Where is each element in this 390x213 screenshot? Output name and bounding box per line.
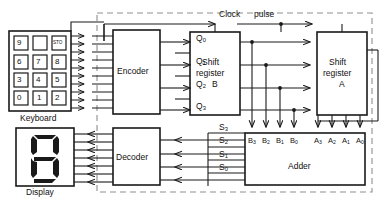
keypad-key-0[interactable]: 0 [17,93,21,102]
srb-label-line3: B [212,79,218,89]
sra-label-line3: A [339,79,345,89]
signal-a2: A2 [328,136,336,145]
signal-s1: S1 [219,149,228,159]
signal-b0: B0 [290,136,298,145]
sra-label-line2: register [323,68,351,78]
encoder-label: Encoder [117,66,149,76]
signal-a3: A3 [314,136,322,145]
signal-s0: S0 [219,162,228,172]
signal-q3: Q3 [196,101,206,111]
signal-b2: B2 [262,136,270,145]
keypad-key-2[interactable]: 2 [55,93,59,102]
signal-s3: S3 [219,122,228,132]
keypad-key-6[interactable]: 6 [17,57,21,66]
keypad-key-8[interactable]: 8 [55,57,59,66]
signal-s2: S2 [219,135,228,145]
keypad-key-sto[interactable]: STO [53,40,62,45]
keypad-key-7[interactable]: 7 [36,57,40,66]
signal-b1: B1 [276,136,284,145]
clock-label-2: pulse [254,9,274,19]
b-tap-verticals [252,42,294,127]
top-feedback-wire [71,22,104,31]
keyboard-label: Keyboard [20,113,56,123]
signal-a0: A0 [356,136,364,145]
signal-q0: Q0 [196,33,206,43]
b-tap-dots [250,40,296,112]
clock-junction-dot [279,22,283,26]
keypad-key-9[interactable]: 9 [17,38,21,47]
decoder-to-display-bus [74,134,113,182]
signal-q2: Q2 [196,79,206,89]
keyboard-to-encoder-bus [71,36,113,108]
keypad-key-1[interactable]: 1 [37,93,41,102]
keypad-key-5[interactable]: 5 [55,75,59,84]
q-label-rules [175,53,190,99]
signal-q1: Q1 [196,56,206,66]
display-label: Display [26,187,54,197]
signal-b3: B3 [248,136,256,145]
sra-label-line1: Shift [329,57,346,67]
seven-segment-digit [31,135,59,183]
signal-a1: A1 [342,136,350,145]
diagram-svg [0,0,390,213]
keypad-key-4[interactable]: 4 [36,75,40,84]
adder-label: Adder [288,161,311,171]
srb-label-line2: register [196,68,224,78]
keypad-key-3[interactable]: 3 [17,75,21,84]
clock-label-1: Clock [219,9,240,19]
decoder-label: Decoder [116,152,148,162]
system-boundary [97,13,372,192]
srb-to-sra-bus [240,42,310,110]
diagram-canvas: Clock pulse Encoder Shift register B Shi… [0,0,390,213]
